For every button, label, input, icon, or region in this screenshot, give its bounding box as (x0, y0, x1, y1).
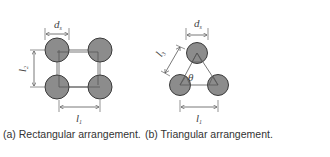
vertical-spacing-dimension: l2 (16, 50, 45, 87)
horizontal-spacing-dimension: l1 (59, 100, 100, 125)
diameter-dimension: ds (45, 18, 69, 40)
panel-triangular: θ ds l3 l1 (153, 17, 229, 125)
svg-text:l1: l1 (76, 112, 82, 125)
diameter-dimension: ds (186, 17, 208, 40)
horizontal-spacing-dimension: l1 (180, 100, 218, 125)
svg-text:l3: l3 (153, 47, 167, 59)
svg-text:l1: l1 (196, 112, 202, 125)
svg-text:ds: ds (194, 17, 203, 30)
caption-triangular: (b) Triangular arrangement. (145, 128, 273, 140)
svg-text:l2: l2 (16, 66, 29, 72)
fiber-circle (88, 38, 112, 62)
diagonal-spacing-dimension: l3 (153, 45, 185, 76)
panel-rectangular: ds l2 l1 (16, 18, 112, 125)
svg-text:ds: ds (54, 18, 63, 31)
caption-rectangular: (a) Rectangular arrangement. (3, 128, 141, 140)
fiber-circle (45, 38, 69, 62)
angle-label: θ (188, 71, 194, 83)
